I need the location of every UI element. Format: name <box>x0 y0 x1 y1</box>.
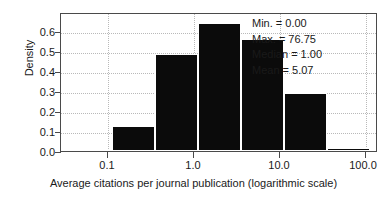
y-tick-label-5: 0.1 <box>40 127 55 138</box>
x-tick-mark <box>365 152 366 158</box>
x-tick-label-2: 10.0 <box>268 160 289 171</box>
y-tick-label-3: 0.3 <box>40 87 55 98</box>
histogram-bar <box>112 126 155 151</box>
y-tick-label-0: 0.6 <box>40 27 55 38</box>
histogram-bar <box>198 23 241 151</box>
annotation-max: Max. = 76.75 <box>252 32 368 48</box>
gridline-vertical <box>108 14 109 151</box>
y-tick-label-2: 0.4 <box>40 67 55 78</box>
histogram-figure: Density 0.6 0.5 0.4 0.3 0.2 0.1 0.0 <box>0 0 387 201</box>
x-tick-mark <box>193 152 194 158</box>
x-tick-mark <box>107 152 108 158</box>
x-axis-title: Average citations per journal publicatio… <box>0 177 387 189</box>
y-tick-label-6: 0.0 <box>40 147 55 158</box>
y-tick-mark <box>55 152 61 153</box>
x-tick-label-3: 100.0 <box>349 160 377 171</box>
histogram-bar <box>69 149 112 151</box>
annotation-mean: Mean = 5.07 <box>252 63 368 79</box>
statistics-annotation: Min. = 0.00 Max. = 76.75 Median = 1.00 M… <box>252 16 368 78</box>
annotation-median: Median = 1.00 <box>252 47 368 63</box>
histogram-bar <box>284 93 327 151</box>
y-tick-label-1: 0.5 <box>40 47 55 58</box>
y-tick-label-4: 0.2 <box>40 107 55 118</box>
annotation-min: Min. = 0.00 <box>252 16 368 32</box>
x-tick-mark <box>279 152 280 158</box>
x-tick-label-0: 0.1 <box>99 160 114 171</box>
x-tick-label-1: 1.0 <box>185 160 200 171</box>
y-axis-title: Density <box>23 23 35 93</box>
histogram-bar <box>155 54 198 151</box>
histogram-bar <box>327 148 370 151</box>
